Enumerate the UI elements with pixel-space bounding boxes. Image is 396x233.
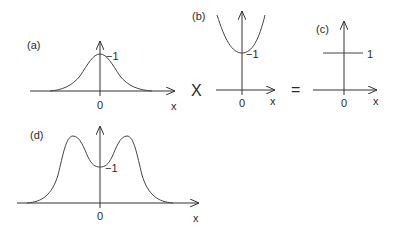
panel-d: (d) −1 0 x (17, 126, 199, 224)
panel-c-label: (c) (316, 23, 329, 35)
panel-b-value-label: −1 (246, 48, 259, 60)
panel-c-origin-label: 0 (341, 97, 347, 109)
panel-a-curve (50, 54, 152, 91)
equals-operator: = (291, 81, 300, 98)
panel-a-label: (a) (27, 39, 40, 51)
panel-d-origin-label: 0 (97, 210, 103, 222)
panel-b-origin-label: 0 (239, 97, 245, 109)
panel-c-value-label: 1 (367, 48, 373, 60)
panel-b-label: (b) (192, 10, 205, 22)
times-operator: X (191, 82, 202, 99)
panel-a-axis-label: x (171, 100, 177, 112)
panel-b-axis-label: x (270, 95, 276, 107)
panel-c: (c) 1 0 x (313, 21, 379, 109)
panel-c-axis-label: x (373, 95, 379, 107)
panel-d-value-label: −1 (105, 162, 118, 174)
panel-d-label: (d) (30, 129, 43, 141)
panel-a: (a) −1 0 x (27, 39, 177, 112)
panel-d-axis-label: x (193, 212, 199, 224)
panel-b: (b) −1 0 x (192, 10, 276, 109)
panel-a-origin-label: 0 (97, 99, 103, 111)
panel-a-value-label: −1 (106, 50, 119, 62)
figure-canvas: (a) −1 0 x (b) −1 0 x X = (c) 1 0 x (d) … (0, 0, 396, 233)
